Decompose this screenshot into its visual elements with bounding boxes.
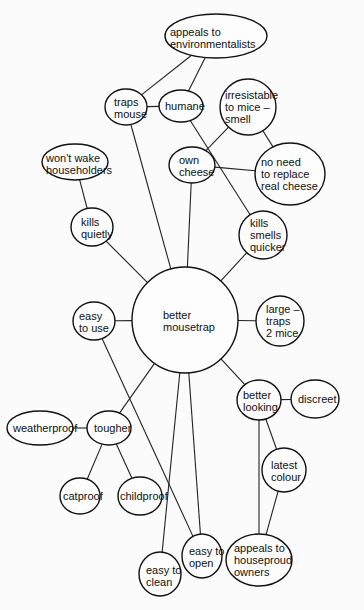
node-label-line: humane (165, 100, 205, 112)
node-label: discreet (298, 393, 337, 405)
node-label-line: better (243, 389, 278, 401)
node-label-line: looking (243, 401, 278, 413)
central-node-label: bettermousetrap (163, 309, 215, 333)
node-label-line: environmentalists (170, 38, 256, 50)
node-label: killssmellsquicker (250, 217, 285, 253)
node-label-line: easy to (189, 545, 224, 557)
node-label-line: appeals to (234, 542, 292, 554)
node-label-line: no need (261, 156, 318, 168)
mind-map-diagram: bettermousetrapappeals toenvironmentalis… (0, 0, 364, 610)
node-label-line: own (179, 154, 214, 166)
node-label: latestcolour (271, 459, 301, 483)
node-label: no needto replacereal cheese (261, 156, 318, 192)
node-label: owncheese (179, 154, 214, 178)
node-label: appeals tohouseproudowners (234, 542, 292, 578)
node-label: easy toopen (189, 545, 224, 569)
node-label-line: kills (81, 216, 113, 228)
node-label-line: easy to (146, 564, 181, 576)
node-label: large –traps2 mice (266, 303, 300, 339)
node-label: appeals toenvironmentalists (170, 26, 256, 50)
node-label: catproof (63, 490, 103, 502)
node-label-line: mousetrap (163, 321, 215, 333)
node-label-line: quicker (250, 241, 285, 253)
node-label-line: clean (146, 576, 181, 588)
node-label-line: large – (266, 303, 300, 315)
node-layer (0, 0, 364, 610)
node-label-line: quietly (81, 228, 113, 240)
node-label-line: 2 mice (266, 327, 300, 339)
node-label-line: to replace (261, 168, 318, 180)
node-label-line: traps (114, 96, 147, 108)
node-label-line: easy (79, 310, 109, 322)
node-label-line: owners (234, 566, 292, 578)
node-label-line: better (163, 309, 215, 321)
node-label-line: childproof (120, 490, 168, 502)
node-label: humane (165, 100, 205, 112)
node-label-line: kills (250, 217, 285, 229)
node-label-line: latest (271, 459, 301, 471)
node-label-line: tougher (94, 422, 131, 434)
node-label-line: appeals to (170, 26, 256, 38)
node-label-line: colour (271, 471, 301, 483)
node-label-line: cheese (179, 166, 214, 178)
node-label-line: to mice – (225, 101, 278, 113)
node-label-line: discreet (298, 393, 337, 405)
node-label: weatherproof (13, 422, 77, 434)
node-label-line: householders (46, 164, 112, 176)
node-label-line: traps (266, 315, 300, 327)
node-label: easyto use (79, 310, 109, 334)
node-label: killsquietly (81, 216, 113, 240)
node-label-line: irresistable (225, 89, 278, 101)
node-label-line: to use (79, 322, 109, 334)
node-label-line: won't wake (46, 152, 112, 164)
node-label: won't wakehouseholders (46, 152, 112, 176)
node-label: tougher (94, 422, 131, 434)
node-label: betterlooking (243, 389, 278, 413)
node-label-line: smells (250, 229, 285, 241)
node-label: trapsmouse (114, 96, 147, 120)
node-label-line: smell (225, 113, 278, 125)
node-label-line: real cheese (261, 180, 318, 192)
node-label: childproof (120, 490, 168, 502)
node-label-line: catproof (63, 490, 103, 502)
node-label-line: houseproud (234, 554, 292, 566)
node-label: irresistableto mice –smell (225, 89, 278, 125)
node-label-line: mouse (114, 108, 147, 120)
node-label-line: weatherproof (13, 422, 77, 434)
node-label-line: open (189, 557, 224, 569)
node-label: easy toclean (146, 564, 181, 588)
